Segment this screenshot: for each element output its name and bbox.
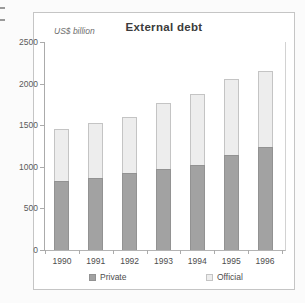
official-segment [156, 103, 171, 170]
official-segment [190, 94, 205, 166]
official-segment [88, 123, 103, 179]
stacked-bar-1991 [88, 123, 103, 250]
y-axis-tick [40, 42, 45, 43]
x-axis-tick [147, 250, 148, 254]
y-axis-tick [40, 167, 45, 168]
x-axis-label-1994: 1994 [188, 256, 207, 266]
private-segment [224, 155, 239, 250]
x-axis-tick [113, 250, 114, 254]
plot-area: 0500100015002000250019901991199219931994… [44, 42, 286, 251]
official-segment [54, 129, 69, 181]
x-axis-tick [79, 250, 80, 254]
legend-item-private: Private [89, 272, 126, 282]
y-axis-tick-label: 1500 [19, 120, 38, 130]
x-axis-label-1993: 1993 [154, 256, 173, 266]
y-axis-tick [40, 208, 45, 209]
private-segment [190, 165, 205, 250]
x-axis-label-1995: 1995 [222, 256, 241, 266]
x-axis-label-1991: 1991 [86, 256, 105, 266]
official-segment [258, 71, 273, 147]
x-axis-label-1996: 1996 [256, 256, 275, 266]
official-swatch-icon [206, 274, 213, 281]
private-segment [156, 169, 171, 250]
private-swatch-icon [89, 274, 96, 281]
legend-label-official: Official [217, 272, 243, 282]
stacked-bar-1996 [258, 71, 273, 250]
y-axis-title: US$ billion [54, 26, 95, 36]
y-axis-tick-label: 2500 [19, 37, 38, 47]
private-segment [88, 178, 103, 250]
chart-frame: External debt US$ billion 05001000150020… [33, 12, 295, 290]
stacked-bar-1990 [54, 129, 69, 250]
scan-artifact [0, 7, 5, 9]
y-axis-tick [40, 84, 45, 85]
stacked-bar-1994 [190, 94, 205, 250]
chart-page: External debt US$ billion 05001000150020… [0, 0, 305, 303]
stacked-bar-1993 [156, 103, 171, 250]
private-segment [122, 173, 137, 250]
stacked-bar-1992 [122, 117, 137, 250]
y-axis-tick-label: 1000 [19, 162, 38, 172]
official-segment [122, 117, 137, 174]
x-axis-tick [180, 250, 181, 254]
x-axis-tick [214, 250, 215, 254]
private-segment [258, 147, 273, 250]
y-axis-tick-label: 2000 [19, 79, 38, 89]
stacked-bar-1995 [224, 79, 239, 250]
official-segment [224, 79, 239, 155]
scan-artifact [0, 19, 5, 21]
y-axis-tick-label: 0 [33, 245, 38, 255]
x-axis-tick [282, 250, 283, 254]
x-axis-tick [248, 250, 249, 254]
x-axis-label-1990: 1990 [52, 256, 71, 266]
x-axis-label-1992: 1992 [120, 256, 139, 266]
private-segment [54, 181, 69, 250]
legend-label-private: Private [100, 272, 126, 282]
legend-item-official: Official [206, 272, 243, 282]
x-axis-tick [45, 250, 46, 254]
y-axis-tick [40, 125, 45, 126]
y-axis-tick-label: 500 [24, 203, 38, 213]
